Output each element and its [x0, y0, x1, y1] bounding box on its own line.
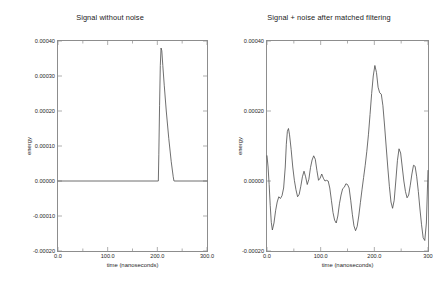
y-tick-label: 0.00030	[35, 73, 55, 79]
x-tick-label: 0.0	[54, 253, 62, 259]
panel-title-right: Signal + noise after matched filtering	[221, 13, 437, 22]
x-tick-label: 300.0	[200, 253, 214, 259]
y-tick-label: 0.00000	[35, 178, 55, 184]
x-tick-label: 0.0	[263, 253, 271, 259]
plot-line-left	[58, 41, 207, 251]
y-tick-label: 0.00000	[244, 178, 264, 184]
figure-canvas: Signal without noise energy time (nanose…	[0, 0, 439, 285]
x-tick-label: 100.0	[314, 253, 328, 259]
y-tick-label: -0.00020	[242, 248, 264, 254]
x-axis-title-left: time (nanoseconds)	[107, 262, 159, 268]
plot-line-right	[267, 41, 428, 251]
chart-panel-right: Signal + noise after matched filtering e…	[219, 0, 439, 285]
x-axis-title-right: time (nanoseconds)	[322, 262, 374, 268]
panel-title-left: Signal without noise	[0, 13, 220, 22]
y-tick-label: 0.00020	[35, 108, 55, 114]
plot-area-left: energy time (nanoseconds) 0.000400.00030…	[57, 40, 208, 252]
chart-panel-left: Signal without noise energy time (nanose…	[0, 0, 220, 285]
y-tick-label: -0.00020	[33, 248, 55, 254]
y-axis-title-right: energy	[237, 137, 243, 155]
y-axis-title-left: energy	[26, 137, 32, 155]
y-tick-label: 0.00040	[35, 38, 55, 44]
plot-area-right: energy time (nanoseconds) 0.000400.00020…	[266, 40, 429, 252]
y-tick-label: 0.00020	[244, 108, 264, 114]
y-tick-label: -0.00010	[33, 213, 55, 219]
x-tick-label: 200.0	[150, 253, 164, 259]
x-tick-label: 200.0	[367, 253, 381, 259]
y-tick-label: 0.00040	[244, 38, 264, 44]
y-tick-label: 0.00010	[35, 143, 55, 149]
x-tick-label: 300	[423, 253, 432, 259]
x-tick-label: 100.0	[101, 253, 115, 259]
